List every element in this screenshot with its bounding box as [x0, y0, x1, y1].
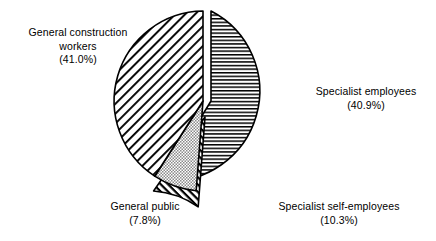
pie-label-value: (40.9%) [300, 99, 432, 113]
pie-label-specialist-employees: Specialist employees (40.9%) [300, 85, 432, 112]
pie-label-general-public: General public (7.8%) [80, 200, 210, 227]
pie-label-value: (41.0%) [8, 53, 148, 67]
pie-label-value: (10.3%) [248, 214, 430, 228]
pie-chart: General construction workers (41.0%) Spe… [0, 0, 436, 241]
pie-label-specialist-self-employees: Specialist self-employees (10.3%) [248, 200, 430, 227]
pie-label-text-line1: General construction [8, 26, 148, 40]
pie-label-general-construction-workers: General construction workers (41.0%) [8, 26, 148, 67]
pie-label-value: (7.8%) [80, 214, 210, 228]
pie-label-text: Specialist self-employees [248, 200, 430, 214]
pie-label-text-line2: workers [8, 40, 148, 54]
pie-label-text: General public [80, 200, 210, 214]
pie-label-text: Specialist employees [300, 85, 432, 99]
